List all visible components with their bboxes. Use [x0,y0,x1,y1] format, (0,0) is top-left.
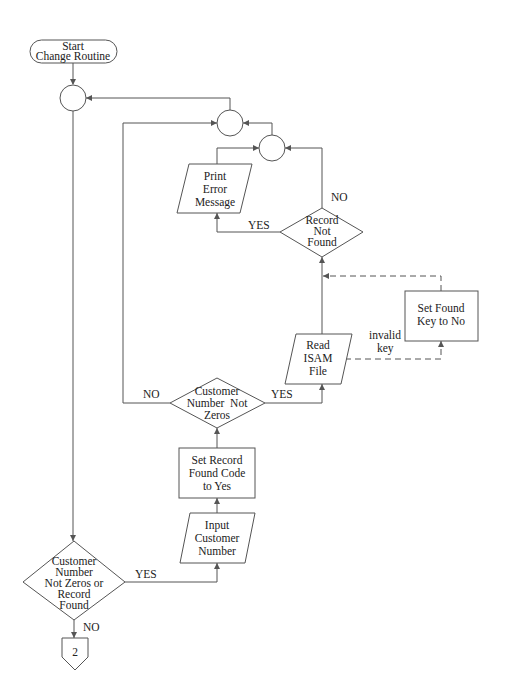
label-key: key [377,342,394,355]
input-customer-line3: Number [198,545,236,557]
arrow-head [70,535,76,541]
input-customer-line2: Customer [195,532,240,544]
arrow-head [214,498,220,504]
arrow-head [253,145,259,151]
set-record-line2: Found Code [189,467,246,479]
connector-2 [217,110,243,136]
arrow-head [211,120,217,126]
start-label-line2: Change Routine [36,50,110,63]
label-main-yes: YES [135,568,157,580]
set-found-key-line2: Key to No [417,315,465,328]
arrow-head [319,384,325,390]
edge-record-not-found-no [285,148,322,208]
set-record-line1: Set Record [192,454,243,466]
arrow-head [214,563,220,569]
read-isam-line2: ISAM [304,352,333,364]
read-isam-line3: File [309,365,327,377]
arrow-head [323,273,329,279]
arrow-head [70,79,76,85]
set-record-found-process: Set Record Found Code to Yes [179,448,255,498]
arrow-head [243,120,249,126]
cust-not-zeros-line2: Number Not [187,397,248,409]
main-decision: Customer Number Not Zeros or Record Foun… [23,541,125,620]
customer-number-not-zeros-decision: Customer Number Not Zeros [170,378,265,428]
print-error-line3: Message [195,196,235,209]
set-found-key-line1: Set Found [418,302,465,314]
arrow-head [86,95,92,101]
cust-not-zeros-line1: Customer [195,385,240,397]
input-customer-line1: Input [205,519,230,532]
flowchart: Start Change Routine Print Error Message… [0,0,506,698]
label-record-not-found-no: NO [331,191,348,203]
connector-3 [259,135,285,161]
off-page-label: 2 [72,646,78,658]
record-not-found-line3: Found [307,236,337,248]
record-not-found-decision: Record Not Found [280,208,363,257]
label-record-not-found-yes: YES [248,219,270,231]
read-isam-io: Read ISAM File [285,334,352,384]
set-record-line3: to Yes [203,480,232,492]
label-cust-not-zeros-no: NO [143,388,160,400]
print-error-io: Print Error Message [177,164,252,213]
label-cust-not-zeros-yes: YES [271,388,293,400]
edge-print-error-to-connector3 [217,148,259,164]
label-main-no: NO [83,621,100,633]
print-error-line1: Print [204,170,227,182]
arrow-head [71,632,77,638]
edge-set-found-key-return [323,276,441,291]
connector-1 [60,85,86,111]
main-decision-line5: Found [59,599,89,611]
arrow-head [285,145,291,151]
arrow-head [214,428,220,434]
arrow-head [438,341,444,347]
cust-not-zeros-line3: Zeros [204,409,231,421]
print-error-line2: Error [203,183,227,195]
input-customer-io: Input Customer Number [180,513,255,563]
read-isam-line1: Read [306,339,330,351]
off-page-connector: 2 [62,638,88,670]
arrow-head [319,257,325,263]
set-found-key-process: Set Found Key to No [405,291,478,341]
label-invalid: invalid [369,329,401,341]
start-terminal: Start Change Routine [30,40,117,63]
edge-connector2-to-connector1 [86,98,230,110]
arrow-head [214,213,220,219]
